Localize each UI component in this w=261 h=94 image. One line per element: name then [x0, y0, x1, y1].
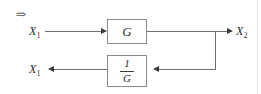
forward-output-wire	[147, 31, 215, 32]
feedback-output-signal-base: X	[29, 62, 36, 76]
feedback-vertical-wire	[215, 31, 216, 70]
feedback-fraction-numerator: 1	[121, 58, 133, 70]
feedback-output-wire	[54, 69, 107, 70]
feedback-input-arrowhead-icon	[153, 66, 159, 72]
block-diagram-canvas: ⇒ X1 G X2 1 G X1	[0, 0, 261, 94]
input-signal-base: X	[29, 24, 36, 38]
feedback-output-arrowhead-icon	[48, 66, 54, 72]
forward-gain-label: G	[122, 25, 131, 38]
input-wire	[45, 31, 105, 32]
feedback-output-signal-label: X1	[29, 63, 40, 75]
feedback-output-signal-subscript: 1	[37, 69, 41, 78]
input-signal-label: X1	[29, 25, 40, 37]
implies-arrow-icon: ⇒	[16, 8, 26, 20]
output-signal-base: X	[236, 24, 243, 38]
feedback-fraction-denominator: G	[120, 73, 134, 85]
feedback-gain-fraction: 1 G	[120, 58, 134, 84]
output-signal-subscript: 2	[244, 31, 248, 40]
forward-gain-block[interactable]: G	[107, 19, 147, 44]
feedback-gain-block[interactable]: 1 G	[107, 55, 147, 87]
output-arrowhead-icon	[227, 28, 233, 34]
input-signal-subscript: 1	[37, 31, 41, 40]
page-frame-rule	[257, 0, 258, 94]
feedback-input-wire	[159, 69, 216, 70]
output-signal-label: X2	[236, 25, 247, 37]
